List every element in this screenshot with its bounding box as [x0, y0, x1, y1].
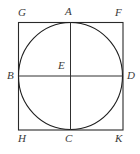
geometry-figure: G A F B E D H C K — [0, 0, 140, 154]
label-C-bottom-tangent: C — [65, 133, 72, 144]
label-G-top-left-corner: G — [18, 7, 26, 18]
label-A-top-tangent: A — [65, 6, 72, 17]
label-K-bottom-right-corner: K — [115, 133, 122, 144]
label-B-left-tangent: B — [7, 70, 14, 81]
label-F-top-right-corner: F — [115, 7, 122, 18]
figure-canvas — [0, 0, 140, 154]
label-H-bottom-left-corner: H — [18, 133, 26, 144]
label-E-center: E — [58, 60, 65, 71]
label-D-right-tangent: D — [127, 70, 135, 81]
